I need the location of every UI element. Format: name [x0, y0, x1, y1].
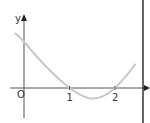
- x-axis-arrow-icon: [144, 85, 150, 91]
- graph: y O 12: [0, 0, 150, 123]
- y-axis-arrow-icon: [21, 14, 27, 21]
- x-tick-label: 2: [112, 92, 118, 103]
- origin-label: O: [17, 89, 25, 100]
- function-curve: [15, 33, 136, 99]
- y-axis-label: y: [15, 13, 21, 24]
- x-tick-label: 1: [67, 92, 73, 103]
